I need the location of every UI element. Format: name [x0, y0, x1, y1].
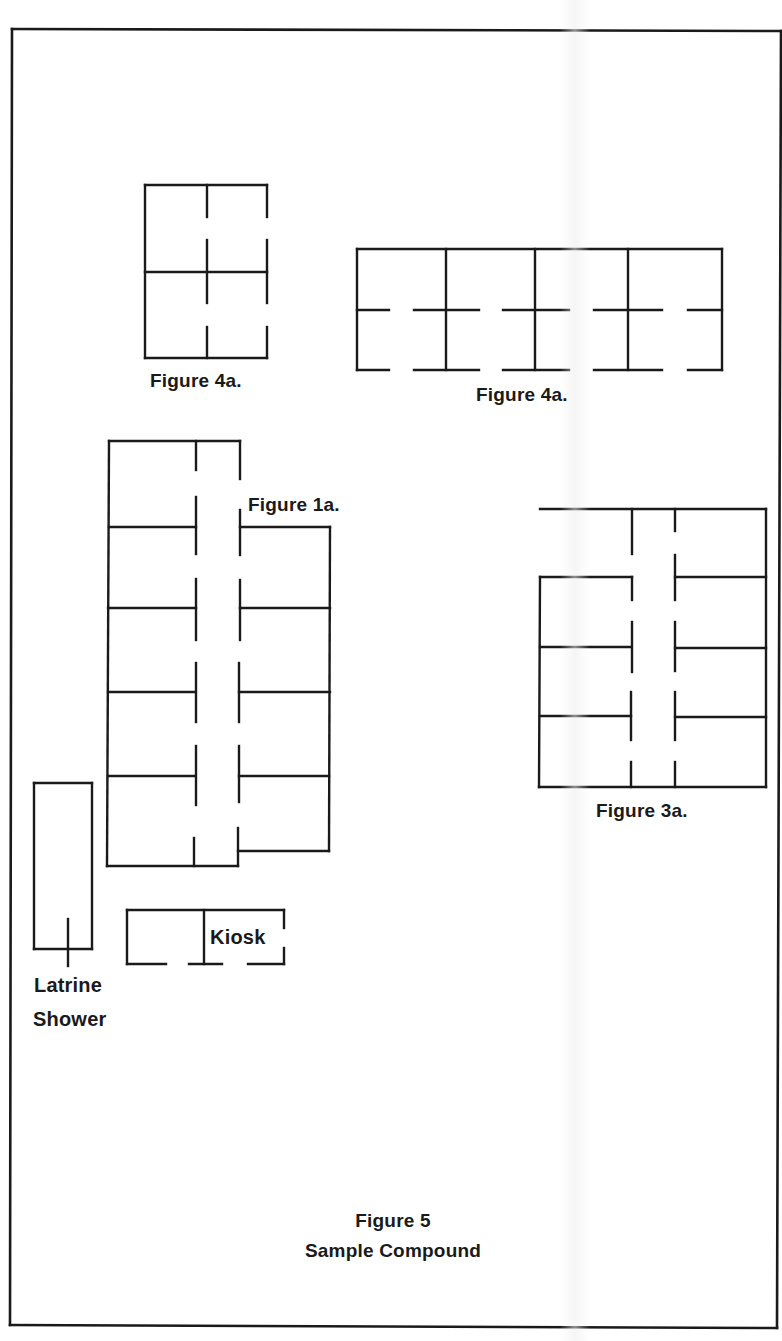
figure-4a-right-label: Figure 4a.: [476, 384, 568, 406]
wall-segment: [777, 31, 781, 1328]
wall-segment: [10, 1325, 777, 1328]
figure-title: Figure 5: [355, 1210, 431, 1232]
figure-4a-left-plan: [145, 185, 267, 358]
latrine-label: Latrine: [34, 974, 102, 997]
kiosk-label: Kiosk: [210, 926, 265, 949]
wall-segment: [107, 441, 109, 866]
wall-segment: [539, 577, 540, 787]
compound-diagram: [0, 0, 782, 1341]
figure-subtitle: Sample Compound: [305, 1240, 481, 1262]
page-frame: [10, 29, 781, 1328]
wall-segment: [329, 527, 330, 851]
wall-segment: [10, 29, 12, 1325]
figure-4a-right-plan: [357, 249, 722, 370]
figure-4a-left-label: Figure 4a.: [150, 370, 242, 392]
figure-1a-label: Figure 1a.: [248, 494, 340, 516]
shower-label: Shower: [33, 1008, 106, 1031]
figure-3a-plan: [539, 509, 766, 787]
wall-segment: [12, 29, 781, 31]
latrine-shower-plan: [34, 783, 92, 966]
figure-3a-label: Figure 3a.: [596, 800, 688, 822]
